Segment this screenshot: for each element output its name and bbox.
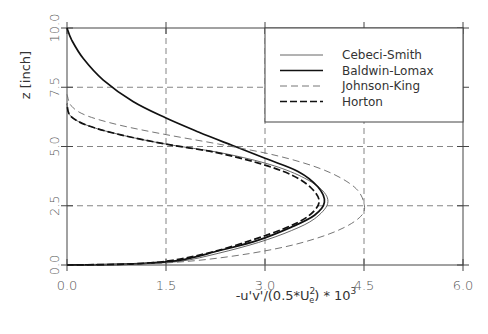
- y-tick-label: 5.0: [47, 136, 62, 157]
- legend-label-baldwin-lomax: Baldwin-Lomax: [342, 64, 434, 78]
- x-tick-label: 6.0: [453, 278, 474, 293]
- curve-horton: [67, 104, 319, 265]
- legend-label-johnson-king: Johnson-King: [341, 79, 420, 93]
- y-tick-label: 10.0: [47, 14, 62, 43]
- y-tick-label: 7.5: [47, 77, 62, 98]
- legend-label-cebeci-smith: Cebeci-Smith: [342, 48, 422, 62]
- legend: Cebeci-SmithBaldwin-LomaxJohnson-KingHor…: [265, 28, 463, 122]
- y-tick-label: 2.5: [47, 195, 62, 216]
- y-axis-label: z [inch]: [18, 51, 33, 99]
- curve-cebeci-smith: [67, 104, 328, 265]
- x-tick-label: 1.5: [156, 278, 177, 293]
- chart: 0.01.53.04.56.0 0.02.55.07.510.0 Cebeci-…: [0, 0, 488, 334]
- x-axis-label: -u'v'/(0.5*U2e) * 103: [236, 286, 357, 305]
- y-tick-labels: 0.02.55.07.510.0: [47, 14, 62, 276]
- y-tick-label: 0.0: [47, 255, 62, 276]
- x-tick-label: 0.0: [57, 278, 78, 293]
- legend-label-horton: Horton: [342, 95, 383, 109]
- x-tick-label: 4.5: [354, 278, 375, 293]
